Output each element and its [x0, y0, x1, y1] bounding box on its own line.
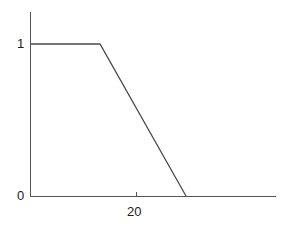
y-axis-tick-label-0: 0 [17, 189, 24, 202]
chart-plot-area [0, 0, 288, 236]
chart-container: 1 0 20 [0, 0, 288, 236]
y-axis-tick-label-1: 1 [17, 37, 24, 50]
x-axis-tick-label-20: 20 [127, 205, 141, 218]
data-series-membership [31, 44, 187, 196]
